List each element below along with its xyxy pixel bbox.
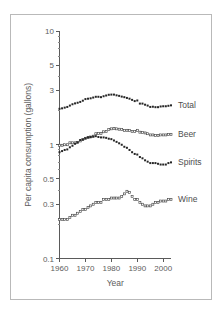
data-point [144,205,146,207]
data-point [131,130,133,132]
data-point [108,129,110,131]
data-point [147,133,149,135]
data-point [162,164,164,166]
data-point [136,154,138,156]
y-axis-title: Per capita consumption (gallons) [23,83,33,207]
data-point [108,138,110,140]
y-tick-label: 5 [50,61,55,70]
data-point [82,100,84,102]
data-point [154,134,156,136]
data-point [123,193,125,195]
data-point [154,106,156,108]
data-point [165,200,167,202]
data-point [149,162,151,164]
data-point [71,103,73,105]
data-point [105,199,107,201]
data-point [110,94,112,96]
data-point [87,136,89,138]
data-point [160,134,162,136]
data-point [79,101,81,103]
data-point [95,96,97,98]
data-point [139,156,141,158]
data-point [108,94,110,96]
data-point [170,134,172,136]
y-tick-label: 3 [50,86,55,95]
data-point [95,202,97,204]
data-point [139,202,141,204]
data-point [162,200,164,202]
data-point [90,205,92,207]
data-point [79,139,81,141]
data-point [105,130,107,132]
data-point [69,142,71,144]
data-point [82,139,84,141]
series-label-total: Total [178,100,196,110]
x-tick-label: 1970 [77,264,95,273]
data-point [82,208,84,210]
data-point [100,132,102,134]
series-labels-group: TotalBeerSpiritsWine [178,100,202,204]
data-point [110,197,112,199]
axis-titles-group: YearPer capita consumption (gallons) [23,83,124,288]
data-point [165,134,167,136]
data-point [113,94,115,96]
y-tick-label: 1 [50,141,55,150]
data-point [118,197,120,199]
data-point [167,162,169,164]
data-point [131,151,133,153]
data-point [121,144,123,146]
data-point [74,102,76,104]
series-wine [59,190,173,220]
x-tick-label: 1960 [51,264,69,273]
data-point [170,199,172,201]
data-point [157,163,159,165]
data-point [136,129,138,131]
data-point [157,202,159,204]
data-point [147,205,149,207]
data-point [162,134,164,136]
data-point [144,159,146,161]
data-point [129,149,131,151]
data-point [103,131,105,133]
data-point [108,199,110,201]
data-point [118,142,120,144]
data-point [154,162,156,164]
y-tick-label: 10 [45,27,54,36]
data-point [84,137,86,139]
data-point [126,97,128,99]
data-point [160,164,162,166]
chart-container: 105310.50.30.119601970198019902000 Total… [0,0,224,317]
data-point [77,212,79,214]
data-point [95,133,97,135]
chart-plot: 105310.50.30.119601970198019902000 Total… [0,0,224,317]
series-group [59,94,173,221]
data-point [103,95,105,97]
data-point [59,151,61,153]
data-point [123,146,125,148]
data-point [167,134,169,136]
data-point [121,129,123,131]
data-point [118,128,120,130]
data-point [129,98,131,100]
data-point [69,216,71,218]
data-point [110,138,112,140]
data-point [59,219,61,221]
data-point [59,108,61,110]
data-point [69,146,71,148]
data-point [149,106,151,108]
data-point [87,98,89,100]
data-point [105,137,107,139]
data-point [116,141,118,143]
series-total [59,94,173,110]
data-point [144,104,146,106]
data-point [66,148,68,150]
data-point [77,141,79,143]
data-point [147,105,149,107]
data-point [97,132,99,134]
data-point [66,219,68,221]
data-point [134,199,136,201]
data-point [134,153,136,155]
data-point [77,102,79,104]
data-point [126,147,128,149]
data-point [116,197,118,199]
